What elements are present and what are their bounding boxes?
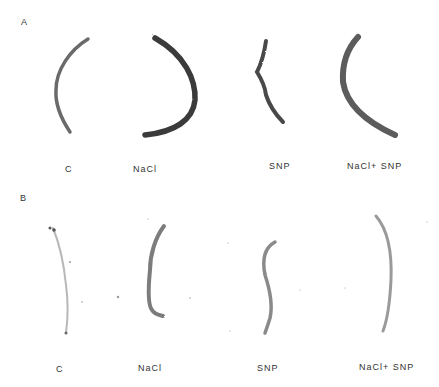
panel-a-specimens	[56, 37, 395, 135]
specimen-b-nacl	[149, 226, 164, 316]
specimen-a-control	[56, 39, 88, 132]
specimen-b-control	[53, 228, 68, 333]
specimen-b-nacl-snp	[376, 216, 391, 331]
specimen-a-nacl	[145, 38, 195, 135]
caption-b-nacl-snp: NaCl+ SNP	[359, 362, 414, 372]
specimen-drawings	[0, 0, 439, 387]
caption-b-nacl: NaCl	[138, 363, 162, 373]
caption-a-control: C	[65, 164, 73, 174]
caption-a-nacl: NaCl	[133, 164, 157, 174]
background-specks	[69, 218, 428, 331]
caption-b-control: C	[56, 364, 64, 374]
caption-a-snp: SNP	[269, 161, 291, 171]
panel-b-specimens	[49, 216, 428, 335]
panel-label-a: A	[21, 17, 27, 27]
specimen-a-nacl-snp	[343, 37, 395, 135]
specimen-b-snp	[264, 242, 275, 333]
panel-label-b: B	[20, 193, 26, 203]
specimen-a-snp	[257, 41, 283, 122]
caption-a-nacl-snp: NaCl+ SNP	[347, 161, 402, 171]
caption-b-snp: SNP	[257, 363, 279, 373]
